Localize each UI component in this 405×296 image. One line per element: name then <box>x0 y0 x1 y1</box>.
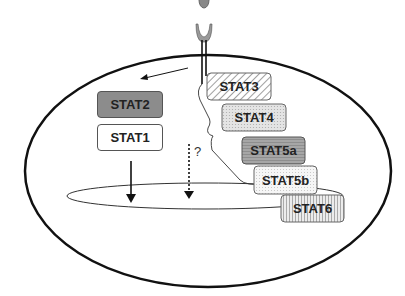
stat4-box: STAT4 <box>222 104 286 131</box>
stat6-box: STAT6 <box>281 195 344 222</box>
arrow-left-icon <box>140 68 188 80</box>
diagram-canvas <box>0 0 405 296</box>
stat1-box: STAT1 <box>97 124 163 151</box>
stat5a-box: STAT5a <box>242 137 305 164</box>
stat3-box: STAT3 <box>207 73 271 100</box>
receptor-icon <box>196 0 212 84</box>
stat5b-box: STAT5b <box>254 166 317 194</box>
arrow-down-solid-icon <box>126 161 136 203</box>
stat2-box: STAT2 <box>97 91 163 118</box>
arrow-down-dotted-icon <box>184 144 194 199</box>
unknown-marker: ? <box>194 144 201 159</box>
